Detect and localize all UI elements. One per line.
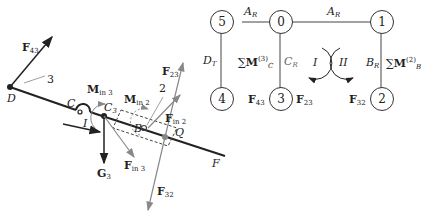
graph-node-1: 1 [370, 10, 394, 34]
diagram-canvas [0, 0, 429, 221]
label-g3: G3 [97, 168, 111, 181]
graph-node-5: 5 [210, 10, 234, 34]
edge-label-0-3: CR [284, 56, 298, 69]
label-f43: F43 [22, 42, 39, 55]
joint-c [78, 110, 82, 114]
label-f32: F32 [157, 186, 174, 199]
label-direction-i: I [83, 118, 87, 129]
edge-label-0-1: AR [327, 6, 340, 19]
label-point-b: B [134, 123, 142, 134]
label-point-q: Q [175, 127, 184, 138]
sum-moment-b2: ∑M(2)B [386, 57, 421, 71]
graph-node-3: 3 [269, 87, 293, 111]
edge-label-1-2: BR [366, 57, 379, 70]
edge-label-5-4: DT [203, 55, 217, 68]
label-f23: F23 [162, 66, 179, 79]
label-link-3: 3 [47, 74, 54, 85]
graph-node-0: 0 [269, 10, 293, 34]
label-point-d: D [7, 93, 16, 104]
label-fin3: Fin 3 [124, 160, 145, 173]
label-point-c: C [67, 98, 75, 109]
label-min3: Min 3 [87, 84, 113, 97]
label-point-f: F [212, 158, 220, 169]
node2-force-f32: F32 [349, 94, 366, 107]
node3-force-f23: F23 [296, 94, 313, 107]
label-min2: Min 2 [124, 94, 150, 107]
loop-label-ii: II [339, 57, 348, 68]
label-point-c3: C3 [104, 102, 117, 115]
loop-label-i: I [313, 57, 317, 68]
leader-3 [24, 76, 45, 83]
sum-moment-c3: ∑M(3)C [238, 56, 273, 70]
force-f32-arrow [148, 137, 165, 210]
graph-node-4: 4 [210, 87, 234, 111]
label-link-2: 2 [159, 83, 166, 94]
node3-force-f43: F43 [248, 94, 265, 107]
graph-node-2: 2 [370, 87, 394, 111]
label-fin2: Fin 2 [165, 113, 186, 126]
edge-label-5-0: AR [244, 6, 257, 19]
